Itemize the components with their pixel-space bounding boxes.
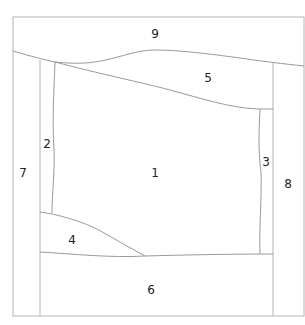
region-label-2: 2 — [43, 137, 51, 151]
region-label-5: 5 — [204, 71, 212, 85]
region-diagram: 9 5 2 1 3 7 8 4 6 — [0, 0, 305, 325]
boundary-region-9 — [13, 50, 304, 66]
region-label-7: 7 — [19, 166, 27, 180]
region-label-6: 6 — [147, 283, 155, 297]
boundary-region-3 — [259, 109, 261, 254]
boundary-region-2 — [52, 62, 55, 213]
boundary-region-6 — [40, 252, 273, 257]
region-label-1: 1 — [151, 166, 159, 180]
region-labels: 9 5 2 1 3 7 8 4 6 — [19, 27, 292, 297]
boundary-region-4 — [40, 212, 145, 256]
region-label-3: 3 — [262, 155, 270, 169]
region-label-8: 8 — [284, 177, 292, 191]
region-label-9: 9 — [151, 27, 159, 41]
region-label-4: 4 — [68, 233, 76, 247]
boundary-region-5 — [55, 62, 273, 109]
